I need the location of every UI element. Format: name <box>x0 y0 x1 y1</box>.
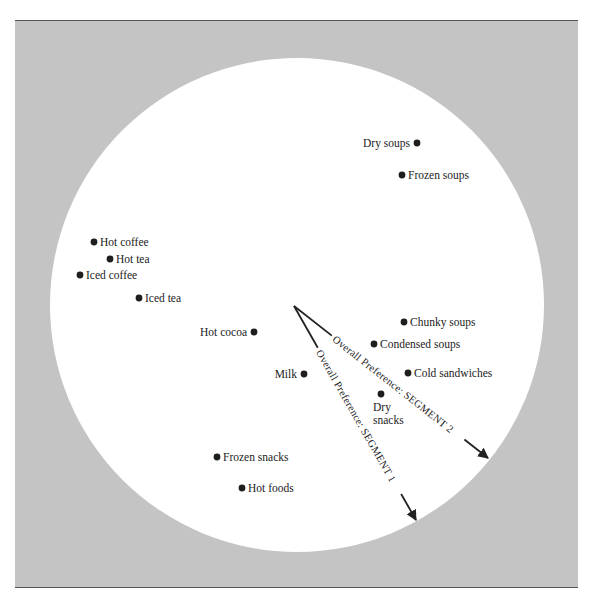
point-marker-icon <box>77 272 84 279</box>
point-hot-coffee: Hot coffee <box>91 236 149 248</box>
perceptual-map: Overall Preference: SEGMENT 2Overall Pre… <box>0 0 592 600</box>
point-marker-icon <box>107 256 114 263</box>
point-label: Hot coffee <box>100 236 149 248</box>
point-marker-icon <box>405 370 412 377</box>
point-label: Dry soups <box>363 137 410 150</box>
point-label: Chunky soups <box>410 316 476 329</box>
point-marker-icon <box>414 140 421 147</box>
point-marker-icon <box>301 371 308 378</box>
point-label: Hot foods <box>248 482 294 494</box>
point-iced-coffee: Iced coffee <box>77 269 138 281</box>
point-marker-icon <box>214 454 221 461</box>
point-label: Condensed soups <box>380 338 461 351</box>
point-marker-icon <box>399 172 406 179</box>
point-label: Milk <box>275 368 298 380</box>
point-label: Cold sandwiches <box>414 367 493 379</box>
point-frozen-soups: Frozen soups <box>399 169 470 182</box>
point-marker-icon <box>371 341 378 348</box>
point-label: Dry <box>373 401 391 414</box>
point-marker-icon <box>251 329 258 336</box>
point-label: Hot cocoa <box>200 326 247 338</box>
point-marker-icon <box>91 239 98 246</box>
point-cold-sandwiches: Cold sandwiches <box>405 367 493 379</box>
point-condensed-soups: Condensed soups <box>371 338 461 351</box>
point-label-line2: snacks <box>373 414 404 426</box>
point-marker-icon <box>239 485 246 492</box>
point-label: Iced tea <box>145 292 181 304</box>
point-chunky-soups: Chunky soups <box>401 316 476 329</box>
point-label: Iced coffee <box>86 269 137 281</box>
map-circle <box>50 58 544 552</box>
point-label: Hot tea <box>116 253 150 265</box>
point-frozen-snacks: Frozen snacks <box>214 451 289 463</box>
point-label: Frozen snacks <box>223 451 289 463</box>
point-marker-icon <box>136 295 143 302</box>
point-marker-icon <box>378 391 385 398</box>
point-label: Frozen soups <box>408 169 470 182</box>
point-marker-icon <box>401 319 408 326</box>
